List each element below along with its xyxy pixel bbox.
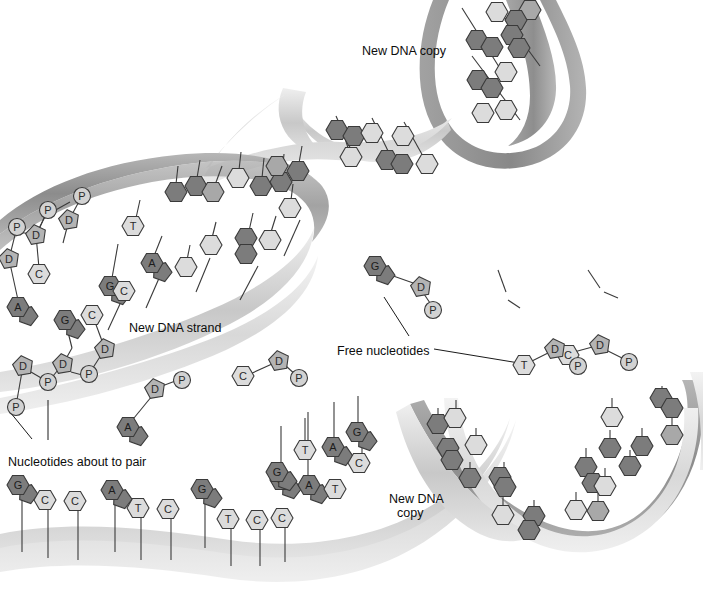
unlabeled-base	[594, 477, 616, 496]
nucleotide-template-bottom-3: A	[101, 481, 132, 509]
unlabeled-base	[391, 155, 413, 174]
nucleotide-new-strand-backbone-3: P	[40, 202, 57, 219]
base-letter: G	[371, 260, 380, 272]
nucleotide-free-nucleotides-7: D	[411, 277, 431, 297]
base-letter: T	[302, 444, 309, 456]
unlabeled-base	[494, 478, 516, 497]
base-letter: D	[19, 360, 27, 372]
base-letter: D	[32, 229, 40, 241]
nucleotide-free-nucleotides-10: D	[590, 335, 610, 355]
unlabeled-base	[599, 439, 621, 458]
leader-pairing-diag	[10, 412, 32, 439]
unlabeled-base	[165, 183, 187, 202]
base-letter: P	[625, 356, 632, 368]
unlabeled-base	[486, 3, 508, 22]
base-letter: C	[564, 349, 572, 361]
nucleotide-new-strand-backbone-0: P	[9, 219, 26, 236]
ribbon-copy-top-outer	[420, 0, 587, 169]
nucleotide-new-strand-backbone-6: P	[74, 188, 91, 205]
nucleotide-free-nucleotides-12: T	[513, 356, 535, 375]
unlabeled-base	[481, 38, 503, 57]
nucleotide-template-bottom-1: C	[34, 491, 56, 510]
nucleotide-template-bottom-6: G	[191, 480, 222, 508]
new-dna-copy-bottom-line2: copy	[397, 506, 423, 520]
base-letter: D	[596, 339, 604, 351]
nucleotide-pairing-zone-6: C	[348, 454, 370, 473]
nucleotide-new-strand-backbone-5: C	[28, 265, 50, 284]
dna-replication-figure: PDAPDCPDGCDPDPDPGTACGCCATCGTCCGATTAGCGAD…	[0, 0, 703, 590]
new-dna-copy-bottom-line1: New DNA	[389, 492, 444, 506]
base-letter: D	[551, 343, 559, 355]
base-letter: C	[278, 512, 286, 524]
base-letter: C	[120, 285, 128, 297]
base-letter: P	[78, 190, 85, 202]
unlabeled-base	[492, 506, 514, 525]
base-letter: P	[44, 204, 51, 216]
base-letter: A	[305, 479, 313, 491]
base-letter: T	[332, 483, 339, 495]
base-letter: C	[35, 268, 43, 280]
unlabeled-base	[472, 104, 494, 123]
unlabeled-base	[619, 457, 641, 476]
nucleotide-new-strand-backbone-11: P	[81, 366, 98, 383]
unlabeled-base	[601, 408, 623, 427]
unlabeled-base	[227, 169, 249, 188]
nucleotide-free-nucleotides-3: C	[232, 367, 254, 386]
base-letter: D	[151, 383, 159, 395]
base-letter: C	[164, 503, 172, 515]
nucleotides-about-to-pair: Nucleotides about to pair	[8, 455, 146, 469]
nucleotide-template-bottom-8: C	[246, 511, 268, 530]
unlabeled-base	[631, 437, 653, 456]
unlabeled-base	[235, 245, 257, 264]
base-letter: P	[178, 374, 185, 386]
base-letter: A	[124, 421, 132, 433]
base-letter: P	[574, 360, 581, 372]
base-letter: D	[59, 358, 67, 370]
unlabeled-base	[661, 426, 683, 445]
unlabeled-base	[200, 236, 222, 255]
base-letter: T	[130, 220, 137, 232]
nucleotide-template-bottom-5: C	[157, 500, 179, 519]
nucleotide-free-nucleotides-2: P	[174, 372, 191, 389]
base-letter: G	[273, 466, 282, 478]
unlabeled-base	[340, 148, 362, 167]
base-letter: D	[65, 214, 73, 226]
base-letter: G	[353, 426, 362, 438]
base-letter: G	[61, 314, 70, 326]
base-letter: A	[108, 484, 116, 496]
base-letter: G	[14, 479, 23, 491]
base-letter: T	[135, 502, 142, 514]
base-letter: C	[355, 457, 363, 469]
nucleotide-free-nucleotides-4: D	[269, 351, 289, 371]
nucleotide-free-nucleotides-14: P	[570, 358, 587, 375]
nucleotide-template-bottom-4: T	[127, 499, 149, 518]
nucleotide-free-nucleotides-0: A	[117, 418, 148, 446]
free-nucleotides: Free nucleotides	[337, 344, 429, 358]
nucleotide-template-bottom-7: T	[217, 510, 239, 529]
unlabeled-base	[343, 127, 365, 146]
base-letter: C	[239, 370, 247, 382]
nucleotide-new-strand-backbone-1: D	[0, 249, 18, 269]
base-letter: C	[88, 309, 96, 321]
base-letter: P	[44, 376, 51, 388]
base-letter: T	[225, 513, 232, 525]
unlabeled-base	[518, 521, 540, 540]
nucleotide-new-strand-backbone-2: A	[7, 298, 38, 326]
base-letter: P	[85, 368, 92, 380]
nucleotide-pairing-zone-3: T	[294, 441, 316, 460]
nucleotide-free-nucleotides-8: P	[425, 302, 442, 319]
nucleotide-template-bottom-9: C	[271, 509, 293, 528]
nucleotide-free-nucleotides-1: D	[145, 379, 165, 399]
base-letter: T	[521, 359, 528, 371]
unlabeled-base	[250, 177, 272, 196]
base-letter: A	[148, 257, 156, 269]
base-letter: D	[275, 355, 283, 367]
nucleotide-new-strand-bases-2: A	[141, 254, 172, 282]
unlabeled-base	[392, 127, 414, 146]
unlabeled-base	[441, 451, 463, 470]
unlabeled-base	[465, 436, 487, 455]
unlabeled-base	[495, 63, 517, 82]
base-letter: P	[429, 304, 436, 316]
nucleotide-free-nucleotides-5: P	[291, 370, 308, 387]
nucleotide-template-bottom-2: C	[64, 492, 86, 511]
